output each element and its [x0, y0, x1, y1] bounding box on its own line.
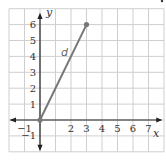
x-axis-left-arrow-icon [10, 117, 16, 122]
x-tick-label: 4 [99, 123, 105, 134]
y-tick-label: 4 [30, 51, 36, 62]
y-tick-label: 2 [30, 83, 36, 94]
x-axis-label: x [153, 127, 160, 140]
coordinate-plane: −1234567−1123456 x y d [0, 0, 166, 161]
y-axis-label: y [45, 6, 53, 19]
endpoint-marker [37, 117, 42, 122]
segment-label-d: d [61, 46, 69, 59]
x-tick-label: 6 [130, 123, 136, 134]
x-tick-label: 3 [83, 123, 89, 134]
y-tick-label: 6 [30, 19, 36, 30]
tick-labels: −1234567−1123456 [17, 19, 152, 141]
y-tick-label: 1 [30, 99, 36, 110]
y-axis-down-arrow-icon [37, 145, 42, 151]
y-tick-label: 5 [30, 35, 36, 46]
y-axis-up-arrow-icon [37, 13, 42, 19]
endpoint-marker [84, 22, 89, 27]
x-axis-right-arrow-icon [156, 117, 162, 122]
top-right-dot [161, 0, 163, 2]
x-tick-label: 7 [145, 123, 151, 134]
y-tick-label: −1 [21, 130, 36, 141]
y-tick-label: 3 [30, 67, 36, 78]
x-tick-label: 5 [114, 123, 120, 134]
x-tick-label: 2 [68, 123, 74, 134]
